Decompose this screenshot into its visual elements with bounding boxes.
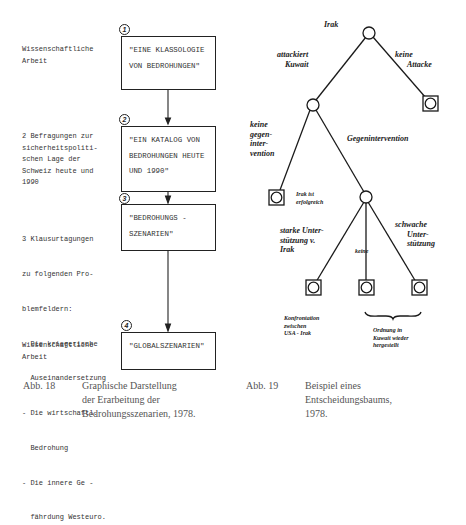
hand-line: starke Unter- (280, 226, 324, 236)
tree-label-no-attack: keine Attacke (395, 50, 432, 69)
hand-line: Irak ist (296, 191, 323, 199)
chance-node-counter (360, 191, 372, 203)
hand-line: keine (395, 50, 432, 60)
hand-line: inter- (250, 139, 274, 149)
tree-label-no-counter: keine gegen- inter- vention (250, 120, 274, 158)
label-line: fährdung Westeuro. (22, 512, 106, 524)
tree-label-weak: schwache Unter- stützung (395, 220, 435, 249)
hand-line: Attacke (395, 60, 432, 70)
figure-label: Abb. 19 (246, 379, 278, 393)
hand-line: attackiert (277, 50, 309, 60)
chance-node-root (363, 27, 375, 39)
hand-line: zwischen (284, 323, 319, 331)
tree-outcome-order: Ordnung in Kuwait wieder hergestellt (373, 327, 409, 350)
hand-line: Kuwait (277, 60, 309, 70)
tree-label-root: Irak (324, 20, 338, 30)
tree-outcome-confrontation: Konfrontation zwischen USA - Irak (284, 315, 319, 338)
caption-line: 1978. (305, 407, 392, 421)
hand-line: Unter- (395, 230, 435, 240)
tree-label-attack: attackiert Kuwait (277, 50, 309, 69)
figure-caption: Beispiel eines Entscheidungsbaums, 1978. (305, 379, 392, 421)
hand-line: stützung v. (280, 236, 324, 246)
hand-line: stützung (395, 239, 435, 249)
hand-line: hergestellt (373, 342, 409, 350)
label-line: Bedrohung (22, 443, 106, 455)
hand-line: Ordnung in (373, 327, 409, 335)
hand-line: erfolgreich (296, 199, 323, 207)
hand-line: Irak (280, 245, 324, 255)
tree-label-counter: Gegenintervention (347, 134, 408, 144)
caption-line: Beispiel eines (305, 379, 392, 393)
hand-line: gegen- (250, 130, 274, 140)
tree-label-strong: starke Unter- stützung v. Irak (280, 226, 324, 255)
hand-line: keine (250, 120, 274, 130)
hand-line: schwache (395, 220, 435, 230)
tree-label-none: keine (355, 248, 368, 256)
chance-node-attack (307, 99, 319, 111)
hand-line: Konfrontation (284, 315, 319, 323)
hand-line: Kuwait wieder (373, 335, 409, 343)
hand-line: USA - Irak (284, 330, 319, 338)
hand-line: vention (250, 149, 274, 159)
label-line: - Die innere Ge - (22, 478, 106, 490)
tree-outcome-success: Irak ist erfolgreich (296, 191, 323, 206)
caption-line: Entscheidungsbaums, (305, 393, 392, 407)
